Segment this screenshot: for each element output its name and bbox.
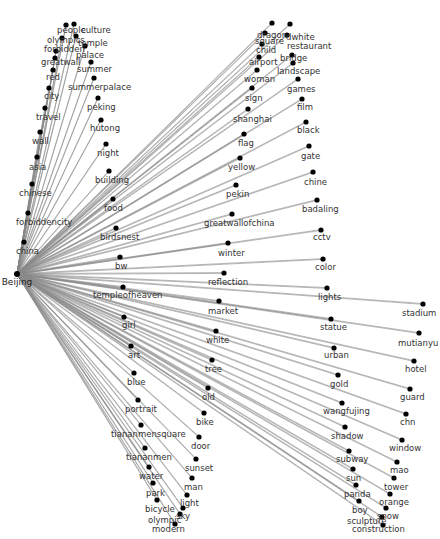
node-greatwallofchina[interactable]	[229, 211, 234, 216]
node-chine[interactable]	[310, 169, 315, 174]
node-label: summerpalace	[68, 82, 131, 92]
node-label: red	[46, 72, 60, 82]
node-label: greatwallofchina	[204, 218, 275, 228]
node-sunset[interactable]	[193, 456, 198, 461]
node-old[interactable]	[205, 385, 210, 390]
node-mao[interactable]	[394, 459, 399, 464]
node-tower[interactable]	[391, 475, 396, 480]
node-label: gold	[330, 379, 348, 389]
node-sun[interactable]	[350, 466, 355, 471]
node-color[interactable]	[320, 256, 325, 261]
node-night[interactable]	[103, 141, 108, 146]
node-label: market	[208, 306, 239, 316]
node-china[interactable]	[21, 239, 26, 244]
node-city[interactable]	[46, 85, 51, 90]
node-door[interactable]	[196, 434, 201, 439]
node-peking[interactable]	[95, 95, 100, 100]
node-birdsnest[interactable]	[113, 225, 118, 230]
node-label: cctv	[313, 232, 331, 242]
node-wangfujing[interactable]	[339, 400, 344, 405]
node-wall[interactable]	[37, 129, 42, 134]
node-label: bike	[196, 417, 214, 427]
node-label: landscape	[277, 66, 320, 76]
node-film[interactable]	[299, 96, 304, 101]
labels-layer: peoplecultureolympicstempleforbiddenpala…	[16, 25, 438, 534]
node-reflection[interactable]	[221, 270, 226, 275]
node-label: reflection	[208, 277, 248, 287]
node-label: greatwall	[41, 57, 80, 67]
node-shanghai[interactable]	[245, 106, 250, 111]
node-blue[interactable]	[131, 370, 136, 375]
node-panda[interactable]	[353, 482, 358, 487]
node-hotel[interactable]	[411, 358, 416, 363]
node-label: wall	[32, 136, 49, 146]
node-label: chinese	[19, 188, 52, 198]
node-label: urban	[324, 350, 349, 360]
node-guard[interactable]	[407, 386, 412, 391]
node-yellow[interactable]	[237, 155, 242, 160]
node-flag[interactable]	[241, 131, 246, 136]
node-asia[interactable]	[34, 154, 39, 159]
node-label: tiananmen	[126, 452, 172, 462]
node-market[interactable]	[216, 298, 221, 303]
node-black[interactable]	[303, 119, 308, 124]
node-chn[interactable]	[403, 411, 408, 416]
node-gate[interactable]	[306, 143, 311, 148]
node-chinese[interactable]	[29, 181, 34, 186]
node-shadow[interactable]	[342, 424, 347, 429]
node-bicycle[interactable]	[154, 497, 159, 502]
node-statue[interactable]	[328, 316, 333, 321]
node-label: lights	[318, 292, 342, 302]
node-label: water	[139, 471, 164, 481]
node-dwhite[interactable]	[287, 21, 292, 26]
node-window[interactable]	[399, 437, 404, 442]
node-girl[interactable]	[121, 314, 126, 319]
node-label: airport	[249, 57, 278, 67]
node-templeofheaven[interactable]	[120, 284, 125, 289]
node-light[interactable]	[184, 492, 189, 497]
node-portrait[interactable]	[135, 397, 140, 402]
node-boy[interactable]	[356, 498, 361, 503]
node-water[interactable]	[146, 464, 151, 469]
node-label: summer	[77, 64, 113, 74]
node-building[interactable]	[106, 168, 111, 173]
node-label: bw	[115, 261, 127, 271]
node-games[interactable]	[295, 76, 300, 81]
node-bike[interactable]	[201, 410, 206, 415]
node-label: stadium	[402, 308, 436, 318]
node-label: shadow	[331, 431, 364, 441]
node-park[interactable]	[150, 480, 155, 485]
node-forbiddencity[interactable]	[25, 210, 30, 215]
edge-beijing-games	[17, 79, 298, 274]
node-badaling[interactable]	[314, 197, 319, 202]
node-label: construction	[352, 524, 405, 534]
node-travel[interactable]	[42, 105, 47, 110]
node-dragon[interactable]	[269, 20, 274, 25]
node-tiananmen[interactable]	[142, 445, 147, 450]
node-mutianyu[interactable]	[416, 330, 421, 335]
node-pekin[interactable]	[233, 182, 238, 187]
node-white[interactable]	[213, 328, 218, 333]
node-label: panda	[344, 489, 371, 499]
node-woman[interactable]	[254, 67, 259, 72]
node-summerpalace[interactable]	[91, 75, 96, 80]
edge-beijing-panda	[17, 274, 356, 485]
node-label: city	[44, 91, 59, 101]
node-food[interactable]	[110, 196, 115, 201]
node-bw[interactable]	[117, 254, 122, 259]
node-winter[interactable]	[225, 240, 230, 245]
node-tiananmensquare[interactable]	[138, 422, 143, 427]
node-orange[interactable]	[387, 491, 392, 496]
node-label: park	[146, 488, 165, 498]
node-art[interactable]	[128, 343, 133, 348]
node-man[interactable]	[189, 475, 194, 480]
node-hutong[interactable]	[98, 117, 103, 122]
node-stadium[interactable]	[420, 301, 425, 306]
node-label: forbiddencity	[16, 217, 72, 227]
node-tree[interactable]	[209, 357, 214, 362]
node-gold[interactable]	[335, 372, 340, 377]
node-lights[interactable]	[324, 285, 329, 290]
node-subway[interactable]	[346, 448, 351, 453]
node-sign[interactable]	[249, 85, 254, 90]
node-label: restaurant	[287, 41, 332, 51]
